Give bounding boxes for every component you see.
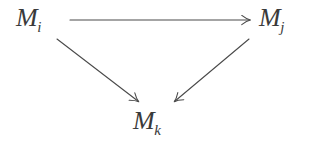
arrow-mj-mk-line (175, 39, 250, 102)
node-mi-base: M (16, 3, 38, 32)
arrow-mj-mk (175, 39, 250, 102)
diagram-canvas: Mi Mj Mk (0, 0, 309, 150)
arrow-mi-mk (57, 39, 139, 102)
node-mk-subscript: k (154, 122, 161, 138)
node-mk-base: M (133, 106, 155, 135)
node-label-mj: Mj (259, 5, 285, 31)
node-label-mk: Mk (133, 108, 162, 134)
node-mj-subscript: j (280, 19, 284, 35)
arrow-mi-mk-line (57, 39, 139, 102)
node-mi-subscript: i (37, 19, 41, 35)
node-mj-base: M (259, 3, 281, 32)
node-label-mi: Mi (16, 5, 42, 31)
